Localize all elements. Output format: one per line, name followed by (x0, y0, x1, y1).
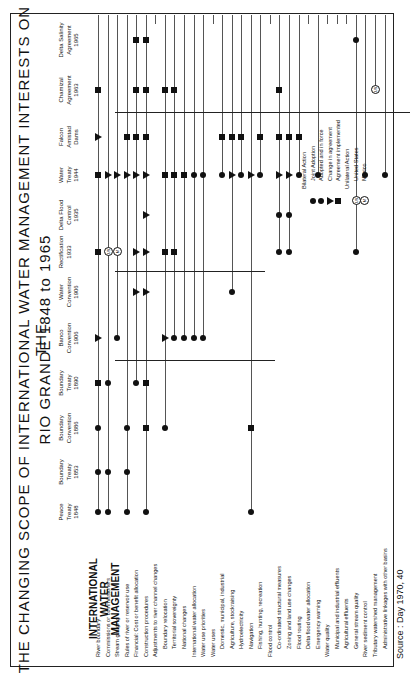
row-timeline-line (155, 15, 156, 24)
row-label: River sediment control (362, 601, 368, 657)
row-timeline-line (308, 15, 309, 24)
dot-icon (286, 212, 292, 218)
square-icon (143, 425, 149, 431)
period-separator (115, 360, 275, 361)
row-timeline-line (346, 15, 347, 24)
row-timeline-line (260, 15, 261, 175)
triangle-icon (114, 171, 121, 179)
column-header-year: Dams (73, 114, 81, 160)
column-header-sub: Treaty (66, 489, 74, 535)
row-label: Administrative linkages with other basin… (382, 548, 388, 649)
column-header: BoundaryConvention1886 (58, 405, 81, 451)
triangle-icon (133, 288, 140, 296)
legend-unilateral: Unilateral Action (343, 120, 352, 209)
mexico-circle-icon: M (360, 196, 369, 205)
legend-adopted: Adopted and in force (317, 120, 326, 209)
triangle-icon (248, 171, 255, 179)
triangle-icon (133, 171, 140, 179)
row-timeline-line (222, 15, 223, 175)
square-icon (143, 87, 149, 93)
us-circle-icon: US (104, 247, 113, 256)
column-header-name: Boundary (58, 449, 66, 495)
dot-icon (286, 249, 292, 255)
column-header-sub: Convention (66, 269, 74, 315)
column-header: WaterConvention1906 (58, 269, 81, 315)
dot-icon (95, 509, 101, 515)
dot-icon (248, 509, 254, 515)
triangle-icon (95, 334, 102, 342)
row-label: Boundary relocation (162, 599, 168, 649)
column-header-year: 1935 (73, 192, 81, 238)
column-header: Delta SalinityAgreement1965 (58, 17, 81, 63)
row-label: Navigation (248, 623, 254, 649)
square-icon (248, 425, 254, 431)
row-label: Financial: Cost or benefit allocation (133, 570, 139, 657)
dot-icon (162, 425, 168, 431)
square-icon (95, 87, 101, 93)
column-header-year: 1906 (73, 269, 81, 315)
column-header-year: 1853 (73, 449, 81, 495)
column-header-name: Delta Flood (58, 192, 66, 238)
column-header-name: Water (58, 269, 66, 315)
column-header: FalconAmistadDams (58, 114, 81, 160)
dot-icon (105, 380, 111, 386)
square-icon (124, 134, 130, 140)
diagram-title-line2: RIO GRANDE 1848 to 1965 (36, 0, 53, 679)
dot-icon (105, 469, 111, 475)
column-header: PeaceTreaty1848 (58, 489, 81, 535)
column-header-sub: Amistad (66, 114, 74, 160)
row-label: Municipal and industrial effluents (334, 568, 340, 649)
dot-icon (124, 509, 130, 515)
column-header-name: Boundary (58, 360, 66, 406)
column-header-sub: Treaty (66, 360, 74, 406)
column-header-sub: Convention (66, 405, 74, 451)
row-label: Rules of river or reservoir use (124, 584, 130, 657)
triangle-icon (276, 171, 283, 179)
triangle-icon (143, 248, 150, 256)
square-icon (95, 380, 101, 386)
square-icon (181, 172, 187, 178)
triangle-icon (105, 171, 112, 179)
square-icon (95, 249, 101, 255)
triangle-icon (143, 171, 150, 179)
dot-stem-icon (318, 198, 324, 204)
triangle-icon (327, 197, 334, 205)
row-label: Stream gauging (114, 618, 120, 658)
row-label: International water allocation (191, 586, 197, 657)
triangle-icon (143, 211, 150, 219)
row-timeline-line (213, 15, 214, 24)
column-header-year: 1965 (73, 17, 81, 63)
row-label: Water uses (210, 629, 216, 657)
dot-icon (229, 289, 235, 295)
row-timeline-line (385, 15, 386, 175)
row-timeline-line (165, 15, 166, 428)
row-timeline-line (251, 15, 252, 512)
dot-icon (124, 469, 130, 475)
row-label: Hydroelectricity (238, 611, 244, 649)
column-header-sub: Agreement (66, 17, 74, 63)
square-icon (276, 87, 282, 93)
column-header-name: Banco (58, 315, 66, 361)
square-icon (238, 134, 244, 140)
row-timeline-line (136, 15, 137, 383)
dot-icon (310, 198, 316, 204)
row-label: General stream quality (353, 593, 359, 649)
triangle-icon (95, 133, 102, 141)
row-label: Flood routing (296, 616, 302, 649)
square-icon (162, 172, 168, 178)
row-label: Emergency warning (315, 600, 321, 649)
row-label: Water quality (324, 625, 330, 657)
square-icon (95, 172, 101, 178)
row-timeline-line (270, 15, 271, 24)
period-separator (115, 112, 410, 113)
dot-icon (191, 335, 197, 341)
row-label: Agricultural effluents (343, 598, 349, 649)
column-header: ChamizalAgreement1963 (58, 67, 81, 113)
square-icon (162, 249, 168, 255)
row-timeline-line (108, 15, 109, 512)
column-header-sub: Agreement (66, 67, 74, 113)
row-label: River boundary (95, 619, 101, 657)
row-label: Commissions or commissioners (105, 578, 111, 657)
row-label: Territorial sovereignty (171, 596, 177, 649)
period-separator (115, 271, 265, 272)
